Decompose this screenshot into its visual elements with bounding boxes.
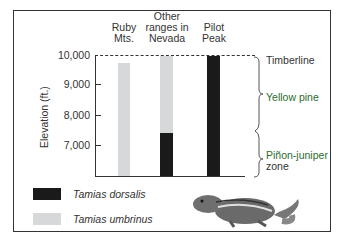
zone-timberline: Timberline [266,55,315,66]
bar-other-dorsalis [160,133,173,176]
zone-yellow-pine: Yellow pine [266,92,319,103]
y-tick-label: 8,000 [40,109,90,121]
y-axis [95,55,96,177]
y-tick-label: 10,000 [40,49,90,61]
timberline-line [95,55,255,56]
bar-ruby-umbrinus [118,63,130,176]
bar-pilot-dorsalis [207,56,220,176]
x-axis [95,176,245,177]
zone-brace-icon [252,54,266,180]
category-label: Nevada [141,33,193,44]
category-pilot: Pilot Peak [194,22,234,44]
chipmunk-illustration-icon [190,185,305,230]
category-label: Mts. [104,33,144,44]
legend-swatch-umbrinus [33,213,61,225]
y-tick-label: 9,000 [40,78,90,90]
zone-pinon-juniper: Piñon-juniper zone [266,150,328,172]
zone-label: zone [266,161,328,172]
bar-other-umbrinus [160,56,173,133]
category-label: Peak [194,33,234,44]
category-other: Other ranges in Nevada [141,11,193,44]
legend-swatch-dorsalis [33,188,61,200]
category-ruby: Ruby Mts. [104,22,144,44]
legend-label-umbrinus: Tamias umbrinus [73,213,153,225]
legend-label-dorsalis: Tamias dorsalis [73,188,146,200]
y-tick-label: 7,000 [40,139,90,151]
